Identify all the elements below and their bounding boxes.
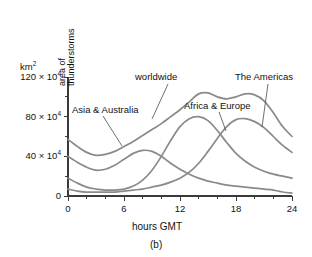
x-tick-label: 6 — [112, 204, 136, 214]
y-tick-label: 0 — [0, 191, 61, 201]
y-tick-label: 80 × 104 — [0, 112, 61, 122]
figure-caption: (b) — [150, 240, 162, 250]
series-label-asia-australia: Asia & Australia — [72, 105, 139, 115]
series-curve-africa-europe — [68, 117, 292, 191]
leader-lines-group — [103, 84, 268, 146]
x-tick-label: 12 — [168, 204, 192, 214]
leader-asia-australia — [103, 116, 122, 146]
leader-worldwide — [152, 84, 168, 119]
series-curve-asia-australia — [68, 150, 292, 193]
x-tick-label: 0 — [56, 204, 80, 214]
series-label-africa-europe: Africa & Europe — [184, 101, 251, 111]
figure-container: km2 area of thunderstorms 040 × 10480 × … — [0, 0, 312, 257]
series-label-the-americas: The Americas — [235, 72, 293, 82]
y-tick-label: 120 × 104 — [0, 72, 61, 82]
series-label-worldwide: worldwide — [135, 72, 177, 82]
x-axis-title: hours GMT — [132, 222, 182, 232]
x-tick-label: 24 — [280, 204, 304, 214]
y-tick-label: 40 × 104 — [0, 151, 61, 161]
chart-canvas — [0, 0, 312, 257]
leader-africa-europe — [219, 112, 226, 131]
x-tick-label: 18 — [224, 204, 248, 214]
